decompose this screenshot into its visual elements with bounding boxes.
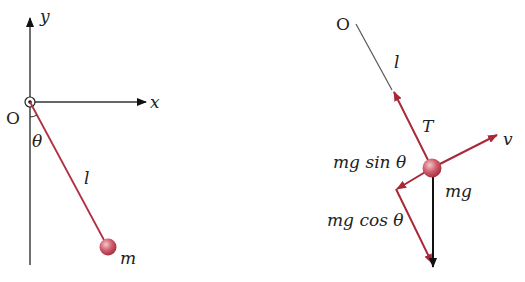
pendulum-bob [423,159,442,178]
y-axis-label: y [39,6,50,26]
tension-label: T [422,116,435,136]
cos-component-label: mg cos θ [327,210,404,230]
x-axis-label: x [150,92,160,112]
origin-label: O [6,108,20,128]
pendulum-figure: y x O θ l m O l T v mg sin θ mg mg cos θ [0,0,525,282]
length-label: l [84,168,89,188]
gravity-label: mg [445,181,472,201]
rod-upper [356,24,392,90]
pendulum-bob [100,239,117,256]
left-diagram: y x O θ l m [6,6,160,268]
sin-component-label: mg sin θ [333,152,406,172]
right-diagram: O l T v mg sin θ mg mg cos θ [327,14,513,267]
angle-label: θ [32,131,42,151]
mass-label: m [120,248,136,268]
origin-label: O [336,14,350,34]
angle-arc [30,115,37,117]
pendulum-rod [30,102,104,240]
velocity-label: v [503,129,513,149]
length-label: l [394,52,399,72]
velocity-arrow [432,135,497,168]
